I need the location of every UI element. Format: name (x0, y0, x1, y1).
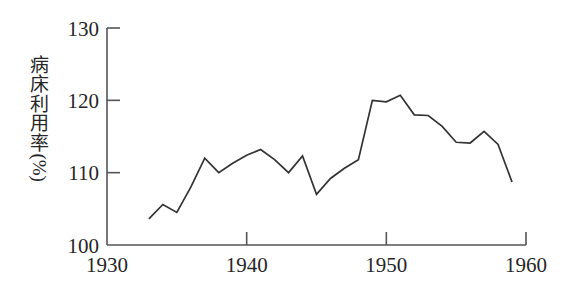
y-tick-label-130: 130 (68, 17, 100, 41)
x-tick-label-1960: 1960 (505, 253, 547, 277)
chart-figure: 病 床 利 用 率 (%) 100110120130 1930194019501… (0, 0, 561, 291)
x-tick-label-1950: 1950 (365, 253, 407, 277)
y-tick-label-120: 120 (68, 89, 100, 113)
y-tick-label-110: 110 (68, 161, 99, 185)
x-tick-label-1930: 1930 (86, 253, 128, 277)
x-axis-ticks (247, 232, 526, 245)
plot-area: 100110120130 1930194019501960 (0, 0, 561, 291)
x-tick-label-1940: 1940 (226, 253, 268, 277)
data-series-line (149, 95, 512, 219)
y-axis-ticks (107, 28, 120, 173)
y-axis-tick-labels: 100110120130 (68, 17, 100, 258)
x-axis-tick-labels: 1930194019501960 (86, 253, 547, 277)
